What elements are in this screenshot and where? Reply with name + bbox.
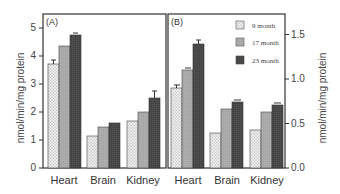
bar-group-heart <box>171 40 204 168</box>
bar-group-brain <box>87 123 120 168</box>
legend-label: 9 month <box>252 22 276 30</box>
y-tick-label: 0.5 <box>291 118 305 129</box>
bar-23-month <box>272 105 283 168</box>
bar-9-month <box>171 88 182 168</box>
bar-23-month <box>109 123 120 168</box>
bar-group-kidney <box>250 103 283 168</box>
bar-17-month <box>59 46 70 168</box>
y-tick-label: 0.0 <box>291 162 305 173</box>
panel-a: (A) 0 1 2 3 4 5 nmol/min/mg protein <box>15 14 166 186</box>
legend-swatch-23-month <box>236 56 244 64</box>
bar-23-month <box>193 44 204 168</box>
x-label-kidney: Kidney <box>126 174 160 186</box>
x-label-heart: Heart <box>51 174 78 186</box>
y-tick-label: 1 <box>30 134 36 145</box>
bar-group-kidney <box>127 91 160 168</box>
legend-swatch-17-month <box>236 38 244 46</box>
panel-b: (B) 0.0 0.5 1.0 1.5 nmol/min/mg protein <box>168 14 328 186</box>
panel-b-y-axis-title: nmol/min/mg protein <box>317 53 328 144</box>
x-label-kidney: Kidney <box>250 174 284 186</box>
bar-17-month <box>138 112 149 168</box>
legend: 9 month 17 month 23 month <box>236 21 279 65</box>
legend-label: 17 month <box>252 39 279 47</box>
y-tick-label: 0 <box>30 162 36 173</box>
x-label-brain: Brain <box>214 174 240 186</box>
bar-group-heart <box>48 33 81 168</box>
panel-a-label: (A) <box>46 17 58 27</box>
bar-9-month <box>250 130 261 168</box>
bar-group-brain <box>210 100 243 168</box>
legend-label: 23 month <box>252 57 279 65</box>
panel-a-y-axis: 0 1 2 3 4 5 nmol/min/mg protein <box>15 22 43 173</box>
x-label-heart: Heart <box>175 174 202 186</box>
legend-swatch-9-month <box>236 21 244 29</box>
x-label-brain: Brain <box>90 174 116 186</box>
bar-17-month <box>182 70 193 168</box>
bar-17-month <box>221 109 232 168</box>
panel-b-y-axis: 0.0 0.5 1.0 1.5 nmol/min/mg protein <box>285 29 328 173</box>
bar-17-month <box>261 112 272 168</box>
bar-9-month <box>48 64 59 168</box>
y-tick-label: 1.0 <box>291 73 305 84</box>
y-tick-label: 2 <box>30 106 36 117</box>
y-tick-label: 5 <box>30 22 36 33</box>
bar-23-month <box>232 102 243 168</box>
y-tick-label: 1.5 <box>291 29 305 40</box>
bar-9-month <box>210 133 221 168</box>
panel-a-y-axis-title: nmol/min/mg protein <box>15 53 26 144</box>
bar-17-month <box>98 127 109 168</box>
bar-23-month <box>149 98 160 168</box>
chart-figure: (A) 0 1 2 3 4 5 nmol/min/mg protein <box>0 0 340 194</box>
bar-23-month <box>70 35 81 168</box>
panel-b-label: (B) <box>171 17 183 27</box>
bar-9-month <box>87 136 98 168</box>
y-tick-label: 4 <box>30 50 36 61</box>
bar-9-month <box>127 121 138 168</box>
y-tick-label: 3 <box>30 78 36 89</box>
